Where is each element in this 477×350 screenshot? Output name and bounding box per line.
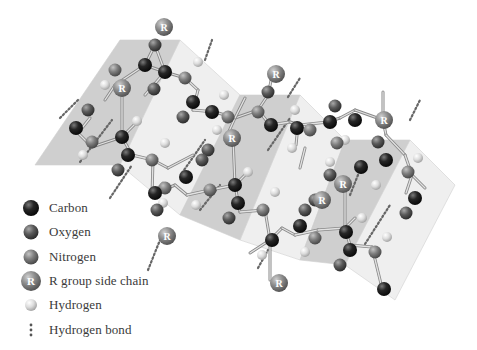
hydrogen-atom-icon	[219, 90, 229, 100]
legend-label: Carbon	[49, 200, 88, 216]
oxygen-atom-icon	[148, 83, 161, 96]
carbon-atom-icon	[343, 243, 357, 257]
legend: Carbon Oxygen Nitrogen R R group side ch…	[20, 196, 180, 342]
oxygen-atom-icon	[400, 207, 413, 220]
carbon-atom-icon	[231, 196, 245, 210]
carbon-atom-icon	[293, 219, 307, 233]
svg-text:R: R	[160, 22, 168, 33]
carbon-atom-icon	[179, 170, 193, 184]
r-group-atom-icon: R	[20, 271, 42, 291]
hydrogen-atom-icon	[300, 247, 310, 257]
nitrogen-atom-icon	[222, 111, 235, 124]
svg-text:R: R	[118, 83, 126, 94]
hydrogen-bond	[410, 100, 420, 120]
hydrogen-bond	[288, 78, 300, 97]
carbon-atom-icon	[264, 118, 278, 132]
carbon-atom-icon	[20, 198, 42, 218]
oxygen-atom-icon	[149, 39, 162, 52]
r-group-atom-icon: R	[334, 175, 352, 193]
svg-text:R: R	[27, 275, 36, 287]
oxygen-atom-icon	[262, 86, 275, 99]
oxygen-atom-icon	[20, 222, 42, 242]
nitrogen-atom-icon	[179, 72, 192, 85]
oxygen-atom-icon	[324, 169, 337, 182]
carbon-atom-icon	[205, 105, 219, 119]
hydrogen-atom-icon	[287, 143, 297, 153]
nitrogen-atom-icon	[109, 64, 122, 77]
hydrogen-atom-icon	[371, 180, 381, 190]
hydrogen-atom-icon	[193, 57, 203, 67]
oxygen-atom-icon	[334, 259, 347, 272]
legend-label: Hydrogen	[49, 297, 102, 313]
legend-label: Nitrogen	[49, 249, 96, 265]
r-group-atom-icon: R	[375, 111, 393, 129]
carbon-atom-icon	[377, 282, 391, 296]
hydrogen-atom-icon	[160, 138, 170, 148]
hydrogen-atom-icon	[382, 232, 392, 242]
hydrogen-atom-icon	[270, 187, 280, 197]
oxygen-atom-icon	[223, 212, 236, 225]
r-group-atom-icon: R	[267, 65, 285, 83]
nitrogen-atom-icon	[331, 137, 344, 150]
legend-label: R group side chain	[49, 273, 149, 289]
svg-text:R: R	[318, 195, 326, 206]
hydrogen-atom-icon	[78, 150, 88, 160]
hydrogen-bond-icon	[20, 320, 42, 340]
oxygen-atom-icon	[329, 100, 342, 113]
hydrogen-atom-icon	[413, 153, 423, 163]
hydrogen-atom-icon	[191, 200, 201, 210]
carbon-atom-icon	[69, 121, 83, 135]
legend-item-hydrogen: Hydrogen	[20, 293, 180, 317]
nitrogen-atom-icon	[257, 204, 270, 217]
hydrogen-atom-icon	[132, 116, 142, 126]
svg-text:R: R	[272, 69, 280, 80]
legend-item-nitrogen: Nitrogen	[20, 245, 180, 269]
hydrogen-bond	[205, 40, 212, 60]
oxygen-atom-icon	[196, 154, 209, 167]
carbon-atom-icon	[121, 148, 135, 162]
nitrogen-atom-icon	[369, 246, 382, 259]
hydrogen-atom-icon	[290, 105, 300, 115]
hydrogen-atom-icon	[243, 167, 253, 177]
r-group-atom-icon: R	[113, 79, 131, 97]
svg-text:R: R	[339, 179, 347, 190]
hydrogen-atom-icon	[257, 250, 267, 260]
carbon-atom-icon	[348, 113, 362, 127]
nitrogen-atom-icon	[402, 166, 415, 179]
r-group-atom-icon: R	[155, 18, 173, 36]
carbon-atom-icon	[290, 121, 304, 135]
oxygen-atom-icon	[112, 164, 125, 177]
hydrogen-atom-icon	[357, 213, 367, 223]
carbon-atom-icon	[323, 115, 337, 129]
carbon-atom-icon	[408, 191, 422, 205]
nitrogen-atom-icon	[252, 106, 265, 119]
svg-text:R: R	[228, 133, 236, 144]
nitrogen-atom-icon	[146, 154, 159, 167]
carbon-atom-icon	[228, 178, 242, 192]
carbon-atom-icon	[379, 153, 393, 167]
hydrogen-atom-icon	[325, 157, 335, 167]
carbon-atom-icon	[158, 65, 172, 79]
hydrogen-atom-icon	[100, 80, 110, 90]
carbon-atom-icon	[138, 58, 152, 72]
carbon-atom-icon	[265, 233, 279, 247]
oxygen-atom-icon	[177, 111, 190, 124]
carbon-atom-icon	[186, 95, 200, 109]
oxygen-atom-icon	[82, 104, 95, 117]
nitrogen-atom-icon	[309, 232, 322, 245]
legend-item-oxygen: Oxygen	[20, 220, 180, 244]
legend-item-r-group: R R group side chain	[20, 269, 180, 293]
legend-label: Oxygen	[49, 224, 91, 240]
nitrogen-atom-icon	[20, 247, 42, 267]
svg-text:R: R	[275, 278, 283, 289]
hydrogen-atom-icon	[212, 125, 222, 135]
carbon-atom-icon	[339, 225, 353, 239]
oxygen-atom-icon	[372, 136, 385, 149]
svg-text:R: R	[380, 115, 388, 126]
legend-item-carbon: Carbon	[20, 196, 180, 220]
r-group-atom-icon: R	[313, 191, 331, 209]
oxygen-atom-icon	[299, 204, 312, 217]
carbon-atom-icon	[354, 160, 368, 174]
legend-item-hydrogen-bond: Hydrogen bond	[20, 317, 180, 341]
carbon-atom-icon	[115, 130, 129, 144]
